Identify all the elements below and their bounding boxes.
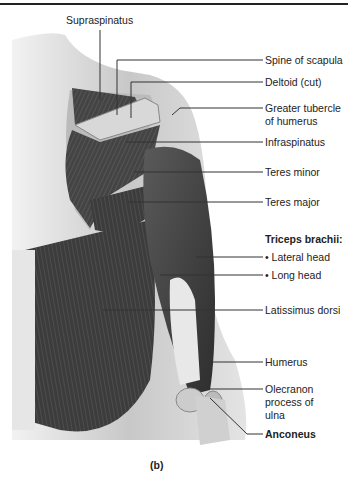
label-olecranon: Olecranon	[265, 383, 313, 395]
label-deltoid-cut: Deltoid (cut)	[265, 76, 322, 88]
label-greater-tubercle-line2: of humerus	[265, 115, 318, 127]
label-long-head: • Long head	[265, 269, 321, 281]
label-olecranon-line3: ulna	[265, 409, 285, 421]
label-teres-minor: Teres minor	[265, 166, 320, 178]
label-triceps-brachii: Triceps brachii:	[265, 233, 343, 245]
label-lateral-head: • Lateral head	[265, 251, 330, 263]
figure-caption: (b)	[150, 459, 163, 471]
label-spine-of-scapula: Spine of scapula	[265, 54, 343, 66]
label-humerus: Humerus	[265, 356, 308, 368]
label-teres-major: Teres major	[265, 196, 320, 208]
label-latissimus-dorsi: Latissimus dorsi	[265, 304, 340, 316]
label-anconeus: Anconeus	[265, 428, 316, 440]
label-supraspinatus: Supraspinatus	[66, 14, 133, 26]
label-olecranon-line2: process of	[265, 396, 313, 408]
label-greater-tubercle: Greater tubercle	[265, 102, 341, 114]
label-infraspinatus: Infraspinatus	[265, 136, 325, 148]
